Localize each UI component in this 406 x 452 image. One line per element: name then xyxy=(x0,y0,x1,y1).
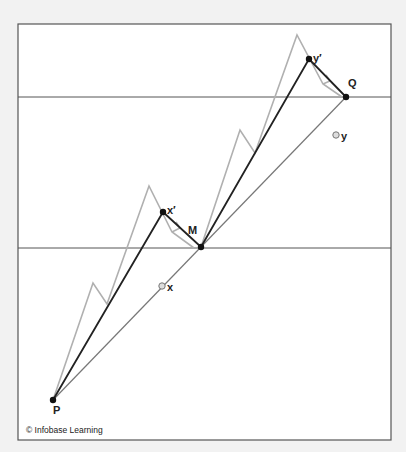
label-y-prime: y′ xyxy=(313,52,322,64)
label-Q: Q xyxy=(348,77,357,89)
point-Q xyxy=(343,94,349,100)
point-y-prime xyxy=(306,56,312,62)
label-M: M xyxy=(188,224,197,236)
label-P: P xyxy=(53,404,60,416)
point-M xyxy=(198,244,204,250)
point-P xyxy=(50,397,56,403)
label-y: y xyxy=(341,130,348,142)
point-x-prime xyxy=(160,209,166,215)
diagram-canvas: P M Q x′ y′ x y © Infobase Learning xyxy=(0,0,406,452)
copyright-text: © Infobase Learning xyxy=(26,425,103,435)
label-x: x xyxy=(167,281,174,293)
point-y xyxy=(333,132,339,138)
point-x xyxy=(159,283,165,289)
label-x-prime: x′ xyxy=(167,204,176,216)
